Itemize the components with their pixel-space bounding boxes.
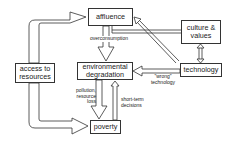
label-overconsumption: overconsumption [84, 36, 134, 42]
node-poverty: poverty [90, 120, 121, 134]
label-pollution: pollution, resource loss [66, 88, 96, 105]
node-technology: technology [180, 63, 222, 77]
label-overconsumption-text: overconsumption [90, 35, 128, 41]
node-env-line2: degradation [86, 71, 124, 79]
label-shortterm-line2: decisions [121, 103, 155, 109]
node-poverty-label: poverty [94, 123, 118, 131]
label-wrong-technology: "wrong" technology [146, 74, 180, 85]
label-pollution-line3: loss [66, 99, 96, 105]
node-access-to-resources: access to resources [15, 63, 55, 83]
arrow-access-to-affluence [29, 12, 86, 63]
node-access-line2: resources [19, 73, 51, 81]
node-environmental-degradation: environmental degradation [77, 62, 133, 80]
arrow-poverty-to-env [111, 81, 119, 120]
node-affluence-label: affluence [96, 13, 125, 21]
label-short-term-decisions: short-term decisions [121, 97, 155, 108]
node-culture-values: culture & values [181, 20, 221, 44]
node-culture-values-line2: values [191, 32, 212, 40]
node-affluence: affluence [88, 8, 133, 26]
label-wrong-line2: technology [146, 80, 180, 86]
node-technology-label: technology [184, 66, 219, 74]
